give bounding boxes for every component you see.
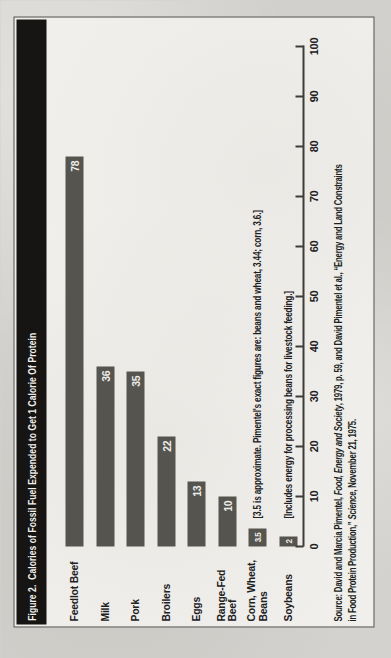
bar-value-label: 10 — [218, 500, 236, 511]
bar-value-label: 36 — [96, 370, 114, 381]
axis-tick — [295, 245, 303, 247]
category-label: Feedlot Beef — [68, 548, 80, 621]
bar-value-label: 3.5 — [248, 532, 266, 542]
axis-tick — [295, 395, 303, 397]
axis-tick-label: 70 — [307, 179, 319, 213]
axis-tick — [295, 145, 303, 147]
bar-value-label: 22 — [157, 440, 175, 451]
axis-tick — [295, 45, 303, 47]
axis-tick-label: 40 — [307, 329, 319, 363]
bar: 3.5 — [248, 529, 266, 547]
bar-annotation: [3.5 is approximate. Pimentel's exact fi… — [252, 210, 263, 518]
axis-tick-label: 90 — [307, 79, 319, 113]
bar-value-label: 35 — [126, 375, 144, 386]
axis-tick-label: 0 — [307, 529, 319, 563]
axis-tick — [295, 195, 303, 197]
category-label: Milk — [99, 548, 111, 621]
category-label: Pork — [129, 548, 141, 621]
bar: 35 — [126, 371, 144, 546]
chart-frame: Figure 2. Calories of Fossil Fuel Expend… — [13, 16, 374, 627]
axis-tick — [295, 445, 303, 447]
bar: 10 — [218, 496, 236, 546]
bar: 36 — [96, 366, 114, 546]
axis-tick-label: 80 — [307, 129, 319, 163]
axis-tick-label: 30 — [307, 379, 319, 413]
bar-value-label: 2 — [279, 539, 297, 543]
source-line-2: in Food Protein Production,” Science, No… — [345, 164, 359, 621]
axis-tick — [295, 95, 303, 97]
axis-tick — [295, 495, 303, 497]
rotated-chart-canvas: Figure 2. Calories of Fossil Fuel Expend… — [0, 0, 391, 658]
bar-annotation: [Includes energy for processing beans fo… — [282, 291, 293, 518]
source-citation: Source: David and Marcia Pimentel, Food,… — [331, 164, 358, 621]
scanned-page: Figure 2. Calories of Fossil Fuel Expend… — [0, 0, 391, 658]
bar: 13 — [187, 481, 205, 546]
axis-tick-label: 100 — [307, 29, 319, 63]
source-line-1: Source: David and Marcia Pimentel, Food,… — [331, 164, 345, 621]
axis-tick-label: 10 — [307, 479, 319, 513]
axis-tick-label: 50 — [307, 279, 319, 313]
category-label: Soybeans — [282, 548, 294, 621]
category-label: Range-FedBeef — [215, 548, 238, 621]
axis-tick — [295, 345, 303, 347]
bar-value-label: 13 — [187, 485, 205, 496]
category-label: Corn, Wheat,Beans — [246, 548, 269, 621]
axis-tick-label: 20 — [307, 429, 319, 463]
category-label: Broilers — [160, 548, 172, 621]
axis-tick — [295, 295, 303, 297]
bar: 78 — [65, 156, 83, 546]
axis-tick-label: 60 — [307, 229, 319, 263]
category-label: Eggs — [191, 548, 203, 621]
bar-value-label: 78 — [65, 160, 83, 171]
plot-area: Feedlot Beef78Milk36Pork35Broilers22Eggs… — [14, 17, 373, 626]
bar: 2 — [279, 536, 297, 546]
axis-tick — [295, 545, 303, 547]
bar: 22 — [157, 436, 175, 546]
